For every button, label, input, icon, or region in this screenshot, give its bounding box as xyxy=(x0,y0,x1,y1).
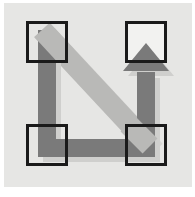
icon-canvas: Four square nodes connected by a thick g… xyxy=(0,0,195,197)
network-path-diagram xyxy=(0,0,195,197)
